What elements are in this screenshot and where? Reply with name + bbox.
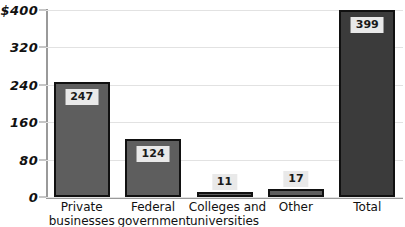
- category-label-line: Colleges and: [189, 200, 260, 214]
- y-axis-tick-mark: [39, 47, 46, 48]
- y-axis-tick-label: 0: [29, 190, 38, 205]
- bar: 11: [197, 192, 253, 197]
- bar-value-label: 17: [283, 171, 308, 187]
- y-axis-tick-mark: [39, 159, 46, 160]
- x-axis-category-label: Federalgovernment: [117, 200, 188, 227]
- bar-value-label: 11: [212, 174, 237, 190]
- y-axis-tick-label: 240: [10, 77, 38, 92]
- y-axis-tick-mark: [39, 84, 46, 85]
- x-axis-category-label: Other: [260, 200, 331, 214]
- category-label-line: Other: [260, 200, 331, 214]
- y-axis-tick-mark: [39, 10, 46, 11]
- category-label-line: businesses: [46, 214, 117, 227]
- bar: 17: [268, 189, 324, 197]
- gridline: [46, 197, 403, 198]
- x-axis-category-label: Privatebusinesses: [46, 200, 117, 227]
- y-axis-tick-mark: [39, 197, 46, 198]
- category-label-line: Federal: [117, 200, 188, 214]
- y-axis-tick-label: $400: [1, 3, 38, 18]
- bar-value-label: 247: [65, 89, 98, 105]
- bar-chart: 080160240320$400 2471241117399 Privatebu…: [0, 0, 405, 227]
- bar-value-label: 399: [351, 17, 384, 33]
- x-axis-category-label: Colleges anduniversities: [189, 200, 260, 227]
- bar: 124: [125, 139, 181, 197]
- plot-area: 2471241117399: [46, 10, 403, 197]
- category-label-line: Private: [46, 200, 117, 214]
- y-axis-tick-label: 80: [19, 152, 38, 167]
- category-label-line: universities: [189, 214, 260, 227]
- x-axis-category-label: Total: [332, 200, 403, 214]
- y-axis-labels: 080160240320$400: [0, 0, 38, 227]
- y-axis-tick-label: 160: [10, 115, 38, 130]
- category-label-line: government: [117, 214, 188, 227]
- bar-value-label: 124: [137, 146, 170, 162]
- bar: 399: [339, 10, 395, 197]
- y-axis-tick-mark: [39, 122, 46, 123]
- bar: 247: [54, 82, 110, 197]
- category-label-line: Total: [332, 200, 403, 214]
- y-axis-tick-label: 320: [10, 40, 38, 55]
